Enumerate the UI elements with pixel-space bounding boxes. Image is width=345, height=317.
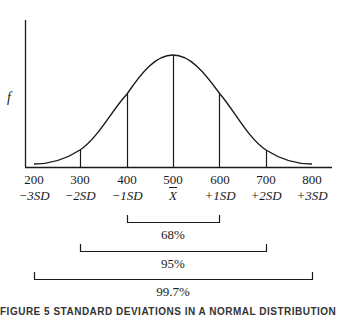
tick-value: 700 <box>241 172 291 187</box>
y-axis-label: f <box>7 90 11 106</box>
tick-sd-label: +1SD <box>195 188 245 203</box>
tick-sd-label: −3SD <box>9 188 59 203</box>
bracket-68 <box>128 215 220 223</box>
percent-99-7: 99.7% <box>143 284 203 300</box>
tick-value: 400 <box>102 172 152 187</box>
mean-label: X <box>148 188 198 203</box>
tick-value: 200 <box>9 172 59 187</box>
tick-value: 300 <box>55 172 105 187</box>
tick-sd-label: +2SD <box>241 188 291 203</box>
tick-value: 500 <box>148 172 198 187</box>
tick-value: 800 <box>287 172 337 187</box>
x-bar-symbol: X <box>169 188 177 203</box>
percent-68: 68% <box>143 227 203 243</box>
tick-sd-label: −2SD <box>55 188 105 203</box>
bracket-99-7 <box>35 272 313 280</box>
tick-sd-label: +3SD <box>287 188 337 203</box>
percent-95: 95% <box>143 256 203 272</box>
tick-sd-label: −1SD <box>102 188 152 203</box>
figure-caption: FIGURE 5 STANDARD DEVIATIONS IN A NORMAL… <box>0 306 345 317</box>
bracket-95 <box>81 244 267 252</box>
tick-value: 600 <box>195 172 245 187</box>
